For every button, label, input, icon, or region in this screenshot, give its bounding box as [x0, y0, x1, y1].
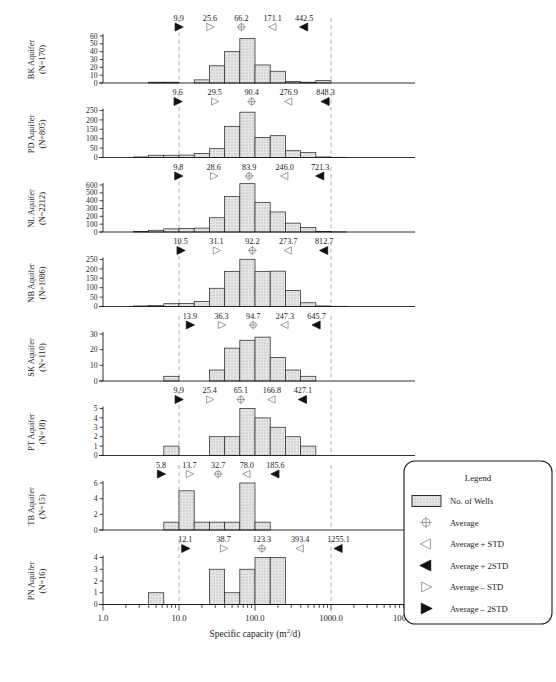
triangle-left-filled-icon: [298, 396, 306, 404]
histogram-bar: [194, 301, 209, 306]
triangle-right-open-icon: [212, 98, 219, 105]
y-tick-label: 400: [86, 196, 98, 205]
y-tick-label: 50: [90, 144, 98, 153]
stat-value-label: 442.5: [295, 14, 313, 23]
stat-value-label: 645.7: [307, 312, 325, 321]
x-tick-label: 100.0: [245, 613, 264, 623]
stat-value-label: 12.1: [178, 535, 192, 544]
y-tick-label: 600: [86, 181, 98, 190]
panel-nb-aquifer: 05010015020025010.531.192.2273.7812.7NB …: [27, 237, 415, 311]
average-marker: [214, 470, 223, 479]
histogram-bar: [240, 409, 255, 456]
panel-name-label: TB Aquifer: [27, 487, 36, 526]
panel-name-label: PN Aquifer: [27, 562, 36, 601]
panel-tb-aquifer: 02465.813.732.778.0185.6TB Aquifer(N=15): [27, 461, 415, 535]
panel-count-label: (N=18): [38, 419, 47, 444]
triangle-left-open-icon: [243, 470, 250, 477]
histogram-bar: [225, 593, 240, 605]
triangle-left-filled-icon: [299, 23, 307, 31]
y-tick-label: 30: [90, 55, 98, 64]
y-tick-label: 250: [86, 106, 98, 115]
stat-value-label: 28.6: [207, 163, 221, 172]
triangle-left-filled-icon: [320, 247, 328, 255]
stat-value-label: 123.3: [253, 535, 271, 544]
histogram-bar: [209, 437, 224, 456]
y-tick-label: 2: [94, 510, 98, 519]
histogram-bar: [225, 348, 240, 381]
histogram-bar: [240, 340, 255, 381]
histogram-bar: [225, 271, 240, 306]
histogram-bar: [164, 229, 179, 232]
histogram-bar: [194, 522, 209, 530]
triangle-right-open-icon: [220, 545, 227, 552]
histogram-bar: [270, 71, 285, 83]
triangle-left-filled-icon: [321, 98, 329, 106]
histogram-bar: [209, 370, 224, 381]
triangle-right-filled-icon: [175, 172, 183, 180]
x-tick-label: 1000.0: [319, 613, 343, 623]
y-tick-label: 100: [86, 283, 98, 292]
stat-value-label: 32.7: [211, 461, 225, 470]
y-tick-label: 4: [94, 414, 98, 423]
x-axis-title: Specific capacity (m2/d): [210, 627, 301, 639]
legend-item-label: No. of Wells: [450, 496, 494, 506]
y-tick-label: 50: [90, 39, 98, 48]
panel-nl-aquifer: 01002003004005006009.828.683.9246.0721.3…: [27, 163, 415, 237]
stat-value-label: 13.9: [183, 312, 197, 321]
hatched-swatch: [412, 496, 441, 507]
stat-value-label: 246.0: [276, 163, 294, 172]
y-tick-label: 20: [90, 345, 98, 354]
y-tick-label: 100: [86, 134, 98, 143]
panel-pd-aquifer: 0501001502002509.629.590.4276.9848.3PD A…: [27, 88, 415, 162]
y-tick-label: 20: [90, 63, 98, 72]
legend-item-hatched-swatch: No. of Wells: [412, 496, 494, 507]
triangle-right-open-icon: [207, 23, 214, 30]
histogram-bar: [209, 522, 224, 530]
histogram-bar: [270, 212, 285, 232]
histogram-bar: [225, 197, 240, 232]
stat-value-label: 92.2: [245, 237, 259, 246]
triangle-right-open-icon: [213, 247, 220, 254]
histogram-bar: [255, 558, 270, 605]
triangle-left-open-icon: [284, 98, 291, 105]
triangle-left-open-icon: [269, 23, 276, 30]
average-marker: [248, 246, 257, 255]
stat-value-label: 66.2: [234, 14, 248, 23]
stat-value-label: 9.8: [173, 163, 183, 172]
histogram-bar: [179, 491, 194, 530]
triangle-left-open-icon: [268, 396, 275, 403]
triangle-left-open-icon: [281, 172, 288, 179]
histogram-bar: [285, 370, 300, 381]
histogram-bar: [164, 376, 179, 381]
histogram-bar: [270, 271, 285, 306]
stat-value-label: 25.6: [203, 14, 217, 23]
triangle-right-filled-icon: [177, 247, 185, 255]
stat-value-label: 427.1: [294, 386, 312, 395]
triangle-left-open-icon: [296, 545, 303, 552]
aquifer-histogram-figure: 01020304050609.925.666.2171.1442.5BK Aqu…: [0, 0, 556, 682]
histogram-bar: [240, 483, 255, 530]
y-tick-label: 10: [90, 71, 98, 80]
y-tick-label: 0: [94, 228, 98, 237]
stat-value-label: 848.3: [316, 88, 334, 97]
histogram-bar: [225, 522, 240, 530]
stat-value-label: 166.8: [263, 386, 281, 395]
histogram-bar: [164, 446, 179, 455]
triangle-left-filled-icon: [271, 470, 279, 478]
y-tick-label: 0: [94, 153, 98, 162]
y-tick-label: 500: [86, 188, 98, 197]
panel-count-label: (N=170): [38, 45, 47, 74]
histogram-bar: [209, 149, 224, 158]
panel-count-label: (N=1086): [38, 266, 47, 299]
histogram-bar: [225, 437, 240, 456]
y-tick-label: 150: [86, 274, 98, 283]
histogram-bar: [301, 303, 316, 307]
stat-value-label: 812.7: [315, 237, 333, 246]
x-tick-label: 10.0: [171, 613, 186, 623]
triangle-right-filled-icon: [175, 396, 183, 404]
y-tick-label: 4: [94, 494, 98, 503]
y-tick-label: 300: [86, 204, 98, 213]
triangle-left-open-icon: [284, 247, 291, 254]
y-tick-label: 3: [94, 565, 98, 574]
panel-pn-aquifer: 0123412.138.7123.3393.41255.1PN Aquifer(…: [27, 535, 415, 609]
